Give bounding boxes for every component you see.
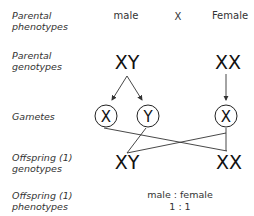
offspring-genotype-xx: XX [216,152,242,172]
gamete-male-x: X [95,105,118,128]
arrow-male-to-x [112,76,127,100]
ratio-label: male : female [147,189,213,201]
line-female-x-to-xy [127,133,226,153]
offspring-genotype-xy: XY [115,152,140,172]
female-phenotype: Female [212,10,248,21]
ratio-value: 1 : 1 [147,201,213,213]
female-genotype: XX [215,52,241,72]
cross-symbol: X [175,11,182,22]
line-y-to-xy [127,128,146,153]
label-parental-genotypes: Parental genotypes [12,50,62,72]
arrow-male-to-y [127,76,142,100]
gamete-male-y: Y [137,105,160,128]
gamete-female-x: X [215,105,238,128]
line-male-x-to-xx [104,128,227,151]
label-offspring-genotypes: Offspring (1) genotypes [12,152,72,174]
label-parental-phenotypes: Parental phenotypes [12,10,68,32]
male-phenotype: male [114,10,139,21]
male-genotype: XY [115,52,140,72]
phenotype-ratio: male : female 1 : 1 [147,189,213,213]
label-offspring-phenotypes: Offspring (1) phenotypes [12,190,72,212]
label-gametes: Gametes [12,111,55,122]
